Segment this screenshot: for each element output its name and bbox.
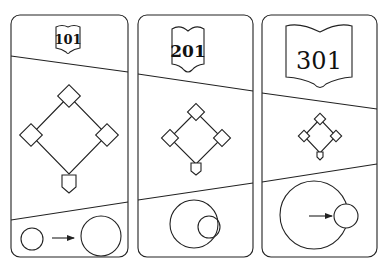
panel-1-large-circle (81, 216, 121, 256)
panel-3-divider-bottom (262, 164, 377, 182)
panel-1-home-plate-icon (62, 175, 76, 193)
panel-1-label: 101 (54, 32, 81, 47)
panel-3-label: 301 (296, 47, 342, 75)
panel-1: 101 (11, 15, 128, 257)
diagram-canvas: 101 201 301 (0, 0, 385, 266)
panel-2-divider-bottom (138, 183, 253, 200)
panel-1-arrowhead (67, 235, 75, 241)
panel-3-home-plate-icon (317, 152, 323, 160)
panel-1-divider-top (11, 56, 128, 72)
panel-3: 301 (262, 15, 377, 257)
panel-2-large-circle (170, 200, 218, 248)
panel-2-home-plate-icon (191, 163, 201, 175)
panel-2-label: 201 (170, 41, 206, 61)
panel-2-divider-top (138, 74, 253, 91)
panel-2: 201 (138, 15, 253, 257)
panel-3-arrowhead (325, 213, 333, 219)
panel-3-divider-top (262, 93, 377, 109)
panel-2-small-circle (198, 216, 220, 238)
panel-3-small-circle (334, 204, 358, 228)
panel-1-divider-bottom (11, 202, 128, 220)
panel-1-small-circle (21, 228, 43, 250)
